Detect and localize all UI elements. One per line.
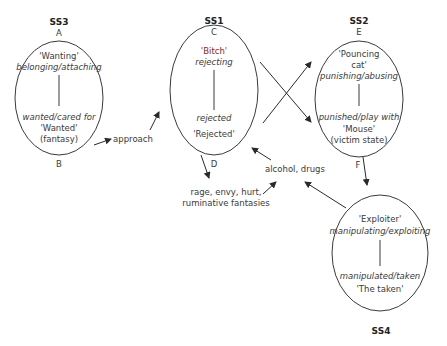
ss3-bottom-note: (fantasy) <box>40 134 78 144</box>
ss2-bottom-note: (victim state) <box>331 135 388 145</box>
ss3-bottom-verb: wanted/cared for <box>23 112 96 122</box>
ss2-label: SS2 <box>350 16 369 26</box>
ss3-letter-b: B <box>56 159 62 169</box>
ss2-letter-e: E <box>356 27 361 37</box>
ss4-bottom-role: 'The taken' <box>357 284 404 294</box>
ss3-letter-a: A <box>56 28 62 38</box>
ss1-label: SS1 <box>205 16 224 26</box>
ss1-top-role: 'Bitch' <box>201 46 227 56</box>
arrow-alcohol-to-ss1 <box>252 148 271 160</box>
arrow-ss3-to-approach <box>94 139 111 145</box>
ss4-bottom-verb: manipulated/taken <box>340 271 421 281</box>
ss3-label: SS3 <box>50 17 69 27</box>
ss1-bottom-verb: rejected <box>197 113 232 123</box>
arrow-ss1-to-rage <box>201 155 209 178</box>
ss4-top-verb: manipulating/exploiting <box>330 226 431 236</box>
ss1-letter-d: D <box>211 159 218 169</box>
ss2-bottom-role: 'Mouse' <box>343 124 375 134</box>
ss1-bottom-role: 'Rejected' <box>193 129 235 139</box>
ss1-top-verb: rejecting <box>195 57 232 67</box>
arrow-rage-to-alcohol <box>263 182 276 194</box>
ss1-letter-c: C <box>211 27 217 37</box>
arrow-ss4-to-alcohol <box>305 182 346 208</box>
rage-label-line2: ruminative fantasies <box>182 198 269 208</box>
ss2-top-role-line1: 'Pouncing <box>339 49 380 59</box>
ss3-top-role: 'Wanting' <box>39 51 79 61</box>
ss4-label: SS4 <box>372 326 391 336</box>
ss2-top-verb: punishing/abusing <box>320 71 398 81</box>
rage-label-line1: rage, envy, hurt, <box>190 187 261 197</box>
ss2-bottom-verb: punished/play with <box>319 112 400 122</box>
alcohol-drugs-label: alcohol, drugs <box>265 164 325 174</box>
arrow-approach-to-ss1 <box>150 112 159 130</box>
approach-label: approach <box>113 134 153 144</box>
arrow-ss2-to-ss4 <box>363 157 367 185</box>
ss4-top-role: 'Exploiter' <box>359 214 401 224</box>
ss2-top-role-line2: cat' <box>351 60 367 70</box>
ss2-letter-f: F <box>356 160 361 170</box>
ss3-bottom-role: 'Wanted' <box>40 123 77 133</box>
ss3-top-verb: belonging/attaching <box>16 62 101 72</box>
